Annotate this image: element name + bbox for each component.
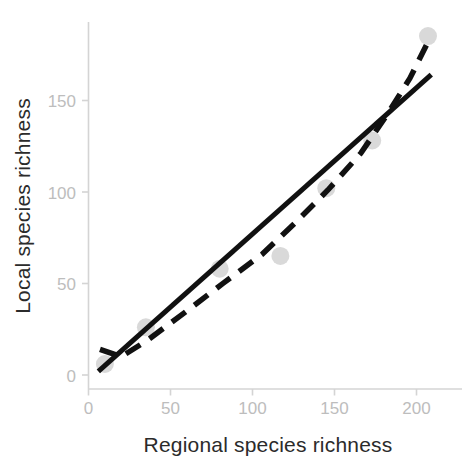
y-tick-label-50: 50 [57, 275, 76, 294]
y-tick-label-150: 150 [48, 92, 76, 111]
y-tick-label-100: 100 [48, 184, 76, 203]
x-axis-title: Regional species richness [144, 433, 393, 456]
x-tick-label-150: 150 [320, 399, 348, 418]
scatter-plot-figure: 150 100 50 0 0 50 100 150 200 Regional s… [0, 0, 466, 475]
x-tick-label-100: 100 [238, 399, 266, 418]
plot-background [0, 0, 466, 475]
y-tick-label-0: 0 [67, 367, 76, 386]
data-point [271, 247, 289, 265]
x-tick-label-200: 200 [402, 399, 430, 418]
plot-canvas: 150 100 50 0 0 50 100 150 200 Regional s… [0, 0, 466, 475]
x-tick-label-0: 0 [84, 399, 93, 418]
x-tick-label-50: 50 [161, 399, 180, 418]
data-point [419, 27, 437, 45]
y-axis-title: Local species richness [11, 98, 34, 314]
